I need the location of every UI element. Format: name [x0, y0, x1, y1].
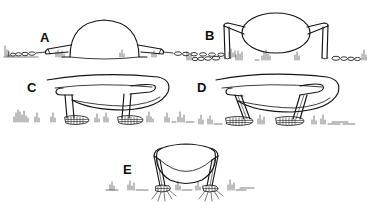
panel-b-left-digits: [192, 56, 220, 60]
panel-d-body-outline: [216, 74, 339, 112]
panel-b-right-foot: [322, 58, 328, 59]
panel-e-body-ventral: [160, 160, 212, 172]
panel-c-left-limb-upper: [56, 88, 73, 95]
panel-b-body-outline: [242, 13, 310, 53]
panel-a-group: [4, 20, 235, 59]
panel-d-right-foot: [276, 117, 304, 126]
panel-a-right-limb-lower: [163, 52, 173, 53]
panel-a-left-limb-lower: [36, 52, 46, 53]
panel-d-left-foot: [226, 117, 253, 126]
panel-b-left-foot: [224, 58, 231, 59]
panel-c-left-foot: [65, 116, 89, 125]
panel-c-body-ventral: [72, 97, 160, 106]
panel-a-left-digits: [10, 52, 35, 56]
figure-root: A B C D E: [0, 0, 367, 209]
panel-c-group: [14, 75, 194, 125]
panel-d-right-limb-upper: [300, 84, 323, 95]
panel-c-ground-hatching: [14, 110, 194, 122]
panel-e-left-foot: [152, 185, 176, 201]
panel-b-right-digits: [332, 56, 361, 60]
panel-e-right-foot: [199, 185, 223, 201]
panel-e-left-limb-upper: [154, 148, 162, 160]
panel-d-body-ventral: [238, 98, 330, 108]
panel-b-right-limb-lower: [322, 25, 328, 58]
panel-c-left-limb-lower: [65, 95, 74, 118]
panel-a-body-ventral-line: [70, 57, 139, 59]
panel-e-group: [106, 144, 254, 201]
limb-posture-figure: [0, 0, 367, 209]
panel-e-right-limb-upper: [210, 148, 218, 160]
panel-a-right-digits: [174, 52, 224, 57]
panel-e-ground-hatching: [106, 180, 254, 190]
panel-d-group: [199, 74, 355, 125]
panel-a-body-outline: [62, 20, 147, 57]
